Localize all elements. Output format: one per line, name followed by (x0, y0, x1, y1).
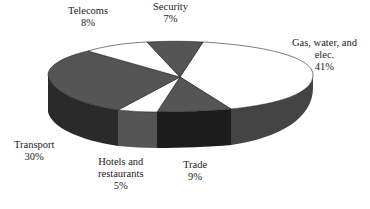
label-telecoms: Telecoms 8% (68, 5, 108, 29)
label-trade: Trade 9% (183, 159, 207, 183)
label-gas: Gas, water, and elec. 41% (292, 37, 357, 73)
side-trade (157, 109, 231, 148)
label-transport: Transport 30% (14, 139, 54, 163)
label-hotels: Hotels and restaurants 5% (98, 156, 143, 192)
side-hotels (118, 110, 157, 148)
label-security: Security 7% (153, 1, 188, 25)
